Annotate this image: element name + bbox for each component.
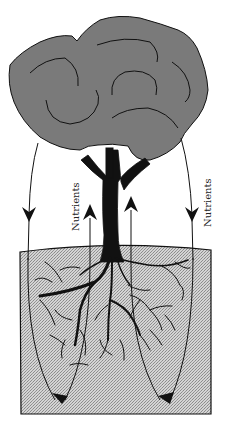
tree-canopy (9, 16, 208, 160)
nutrients-label-left: Nutrients (70, 182, 81, 231)
nutrients-label-right: Nutrients (202, 178, 213, 227)
downward-arrow-left (22, 143, 38, 260)
tree-trunk (81, 148, 150, 262)
nutrient-cycle-diagram: Nutrients Nutrients (0, 0, 226, 428)
downward-arrow-right (181, 138, 199, 260)
